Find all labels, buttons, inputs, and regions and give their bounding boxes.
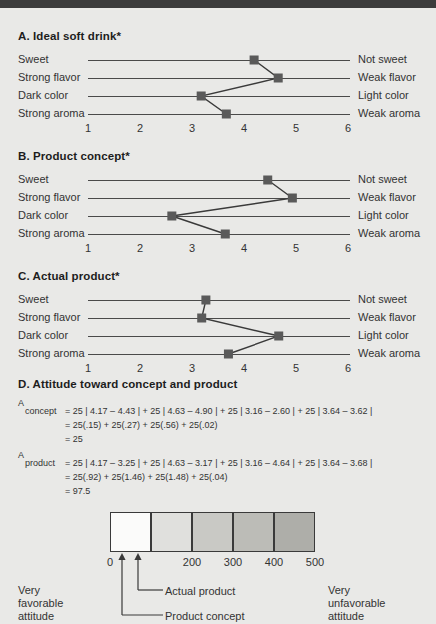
formula-product-symbol: A (18, 450, 24, 460)
formula-concept-subscript: concept (25, 406, 57, 416)
formula-concept-line1: = 25 | 4.17 – 4.43 | + 25 | 4.63 – 4.90 … (65, 406, 372, 416)
profile-marker-0 (263, 176, 272, 185)
profile-marker-3 (224, 350, 233, 359)
profile-marker-2 (167, 212, 176, 221)
section-title-c: C. Actual product* (18, 270, 120, 282)
profile-marker-1 (288, 194, 297, 203)
formula-product-line3: = 97.5 (65, 486, 90, 496)
attitude-scale: 0 100 200 300 400 500 Very favorable att… (0, 512, 436, 624)
formula-concept-line2: = 25(.15) + 25(.27) + 25(.56) + 25(.02) (65, 420, 218, 430)
pointer-product-concept (118, 553, 163, 615)
section-title-a: A. Ideal soft drink* (18, 30, 121, 42)
formula-product-subscript: product (25, 458, 55, 468)
figure-page: A. Ideal soft drink* Sweet Strong flavor… (0, 8, 436, 624)
profile-marker-2 (197, 92, 206, 101)
profile-polyline (202, 300, 279, 354)
chart-panel-b: B. Product concept* Sweet Strong flavor … (0, 128, 436, 246)
profile-marker-0 (201, 296, 210, 305)
pointer-actual-product (134, 553, 163, 590)
profile-marker-2 (274, 332, 283, 341)
profile-marker-1 (274, 74, 283, 83)
profile-marker-3 (221, 230, 230, 239)
formula-concept-symbol: A (18, 398, 24, 408)
profile-marker-1 (197, 314, 206, 323)
profile-polyline (201, 60, 278, 114)
chart-panel-a: A. Ideal soft drink* Sweet Strong flavor… (0, 8, 436, 126)
formula-block: A concept = 25 | 4.17 – 4.43 | + 25 | 4.… (0, 394, 436, 504)
chart-panel-c: C. Actual product* Sweet Strong flavor D… (0, 248, 436, 366)
scale-pointer-lines (0, 512, 436, 624)
formula-concept-line3: = 25 (65, 434, 83, 444)
chart-panel-d: D. Attitude toward concept and product A… (0, 368, 436, 624)
profile-marker-3 (222, 110, 231, 119)
section-title-b: B. Product concept* (18, 150, 130, 162)
formula-product-line1: = 25 | 4.17 – 3.25 | + 25 | 4.63 – 3.17 … (65, 458, 372, 468)
profile-polyline (172, 180, 293, 234)
section-title-d: D. Attitude toward concept and product (18, 378, 237, 390)
profile-marker-0 (250, 56, 259, 65)
top-dark-band (0, 0, 436, 8)
formula-product-line2: = 25(.92) + 25(1.46) + 25(1.48) + 25(.04… (65, 472, 228, 482)
